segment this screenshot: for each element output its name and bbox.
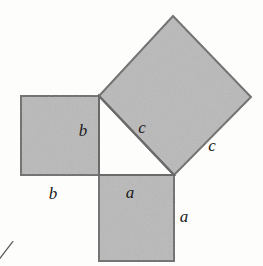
- label-a-inner: a: [126, 183, 135, 202]
- label-b-outer: b: [49, 184, 58, 203]
- square-on-leg-b: [21, 96, 99, 175]
- square-on-leg-a: [99, 175, 174, 261]
- label-c-inner: c: [138, 118, 146, 137]
- diagram-canvas: b b c c a a ╱: [0, 0, 263, 266]
- pythagorean-diagram: b b c c a a ╱: [0, 0, 263, 266]
- label-a-outer: a: [180, 207, 189, 226]
- label-c-outer: c: [208, 136, 216, 155]
- label-b-inner: b: [79, 121, 88, 140]
